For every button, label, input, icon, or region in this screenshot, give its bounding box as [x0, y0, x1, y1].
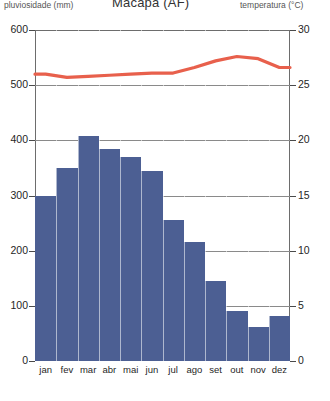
left-tick-label-0: 0: [2, 354, 28, 366]
month-label-jun: jun: [141, 364, 162, 375]
month-label-set: set: [205, 364, 226, 375]
temperature-line-series: [35, 30, 290, 361]
month-label-jan: jan: [35, 364, 56, 375]
right-tick-label-30: 30: [298, 23, 324, 35]
chart-title: Macapá (AF): [112, 0, 189, 10]
axis-tick: [290, 196, 296, 197]
plot-area: [35, 30, 290, 361]
right-axis-title: temperatura (°C): [240, 0, 303, 12]
right-tick-label-10: 10: [298, 244, 324, 256]
right-tick-label-20: 20: [298, 133, 324, 145]
chart-header: pluviosidade (mm) Macapá (AF) temperatur…: [0, 0, 330, 16]
left-tick-label-500: 500: [2, 78, 28, 90]
axis-tick: [290, 251, 296, 252]
axis-tick: [290, 85, 296, 86]
axis-tick: [290, 306, 296, 307]
month-label-abr: abr: [99, 364, 120, 375]
right-tick-label-25: 25: [298, 78, 324, 90]
month-label-dez: dez: [269, 364, 290, 375]
left-tick-label-100: 100: [2, 299, 28, 311]
month-label-mar: mar: [78, 364, 99, 375]
left-tick-label-300: 300: [2, 189, 28, 201]
left-tick-label-200: 200: [2, 244, 28, 256]
axis-tick: [290, 30, 296, 31]
axis-tick: [290, 361, 296, 362]
month-label-nov: nov: [248, 364, 269, 375]
month-label-out: out: [226, 364, 247, 375]
left-tick-label-600: 600: [2, 23, 28, 35]
month-label-fev: fev: [56, 364, 77, 375]
left-axis-title: pluviosidade (mm): [4, 0, 73, 12]
right-tick-label-15: 15: [298, 189, 324, 201]
month-label-ago: ago: [184, 364, 205, 375]
left-tick-label-400: 400: [2, 133, 28, 145]
climograph: pluviosidade (mm) Macapá (AF) temperatur…: [0, 0, 330, 401]
month-label-mai: mai: [120, 364, 141, 375]
axis-tick: [290, 140, 296, 141]
month-label-jul: jul: [163, 364, 184, 375]
right-tick-label-0: 0: [298, 354, 324, 366]
right-tick-label-5: 5: [298, 299, 324, 311]
axis-tick: [29, 361, 35, 362]
temperature-polyline: [35, 56, 290, 77]
